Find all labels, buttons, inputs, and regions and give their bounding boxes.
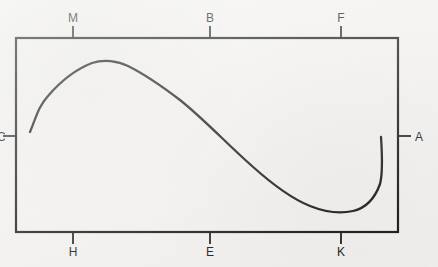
- axis-label-a: A: [415, 130, 423, 144]
- curve-diagram: M B F H E K C A: [0, 0, 438, 267]
- axis-label-c: C: [0, 130, 6, 144]
- axis-label-k: K: [337, 245, 345, 259]
- axis-label-b: B: [206, 11, 214, 25]
- figure-container: M B F H E K C A: [0, 0, 438, 267]
- plot-frame-border: [16, 38, 398, 232]
- axis-label-e: E: [206, 245, 214, 259]
- axis-label-h: H: [69, 245, 78, 259]
- axis-label-f: F: [337, 11, 344, 25]
- plot-curve-line: [30, 61, 382, 213]
- axis-label-m: M: [68, 11, 78, 25]
